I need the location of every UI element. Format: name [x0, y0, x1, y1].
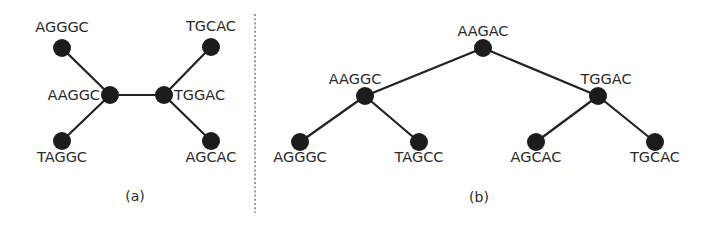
node-label: TGCAC [185, 18, 236, 34]
node-label: AAGGC [329, 71, 382, 87]
tree-edge [300, 96, 365, 142]
tree-node-aagac [474, 39, 492, 57]
tree-edge [536, 96, 598, 142]
tree-node-tggac [589, 87, 607, 105]
tree-edge [365, 48, 483, 96]
panel-b-caption: (b) [469, 189, 489, 205]
node-label: AGCAC [186, 149, 237, 165]
panel-a-caption: (a) [125, 188, 145, 204]
tree-edge [365, 96, 419, 142]
phylogenetic-tree-diagram: AGGGCAAGGCTAGGCTGGACTGCACAGCAC (a) AAGAC… [0, 0, 709, 225]
node-label: TGGAC [173, 87, 225, 103]
tree-node-agcac [202, 132, 220, 150]
tree-node-tgcac [202, 38, 220, 56]
tree-node-tggac [155, 86, 173, 104]
node-label: AGGGC [35, 19, 89, 35]
node-label: TGCAC [629, 149, 680, 165]
panel-a-unrooted-tree: AGGGCAAGGCTAGGCTGGACTGCACAGCAC (a) [35, 18, 236, 204]
tree-node-agggc [53, 39, 71, 57]
node-label: AAGAC [457, 23, 508, 39]
node-label: AGCAC [511, 149, 562, 165]
tree-node-aaggc [101, 86, 119, 104]
tree-node-aaggc [356, 87, 374, 105]
node-label: AGGGC [273, 149, 327, 165]
tree-node-taggc [53, 132, 71, 150]
tree-edge [598, 96, 655, 142]
panel-b-rooted-tree: AAGACAAGGCTGGACAGGGCTAGCCAGCACTGCAC (b) [273, 23, 680, 205]
node-label: TAGCC [394, 149, 444, 165]
node-label: AAGGC [47, 87, 100, 103]
node-label: TAGGC [36, 149, 87, 165]
nodes [291, 39, 664, 151]
node-label: TGGAC [579, 71, 631, 87]
